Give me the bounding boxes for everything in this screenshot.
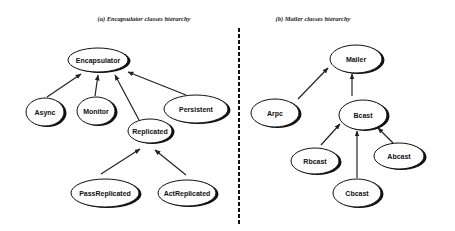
edge-rbcast-to-bcast (321, 124, 340, 145)
node-abcast: Abcast (374, 143, 427, 170)
node-arpc: Arpc (251, 99, 302, 128)
node-cbcast: Cbcast (333, 179, 384, 208)
node-label: Mailer (346, 56, 367, 63)
edge-replicated-to-encapsulator (115, 75, 139, 120)
node-label: Bcast (353, 112, 373, 119)
node-mailer: Mailer (330, 45, 385, 74)
node-label: Rbcast (303, 158, 327, 165)
edge-abcast-to-bcast (378, 128, 393, 143)
node-label: Abcast (387, 153, 411, 160)
node-actreplicated: ActReplicated (158, 180, 219, 207)
node-label: PassReplicated (79, 190, 131, 198)
node-label: Async (34, 109, 55, 117)
node-rbcast: Rbcast (291, 148, 342, 175)
edge-arpc-to-mailer (298, 68, 328, 99)
edge-passreplicated-to-replicated (101, 149, 140, 174)
node-label: ActReplicated (164, 190, 211, 198)
node-label: Encapsulator (76, 57, 121, 65)
node-replicated: Replicated (128, 119, 175, 144)
node-label: Monitor (83, 108, 109, 115)
edge-persistent-to-encapsulator (128, 72, 186, 95)
node-label: Replicated (132, 128, 167, 136)
node-persistent: Persistent (164, 95, 231, 124)
node-bcast: Bcast (339, 100, 390, 131)
edge-monitor-to-encapsulator (95, 75, 98, 96)
node-async: Async (26, 98, 67, 127)
class-nodes: EncapsulatorAsyncMonitorPersistentReplic… (26, 45, 427, 208)
node-encapsulator: Encapsulator (68, 48, 131, 73)
edge-actreplicated-to-replicated (155, 150, 186, 175)
panel-titles: (a) Encapsulator classes hierarchy(b) Ma… (98, 15, 351, 23)
node-label: Persistent (179, 106, 214, 113)
node-label: Arpc (267, 110, 283, 118)
edge-async-to-encapsulator (47, 74, 81, 97)
diagram-title: (b) Mailer classes hierarchy (276, 15, 351, 23)
diagram-title: (a) Encapsulator classes hierarchy (98, 15, 191, 23)
node-label: Cbcast (345, 190, 369, 197)
node-monitor: Monitor (77, 97, 118, 126)
class-hierarchy-diagrams: (a) Encapsulator classes hierarchy(b) Ma… (0, 0, 455, 231)
node-passreplicated: PassReplicated (71, 179, 142, 208)
